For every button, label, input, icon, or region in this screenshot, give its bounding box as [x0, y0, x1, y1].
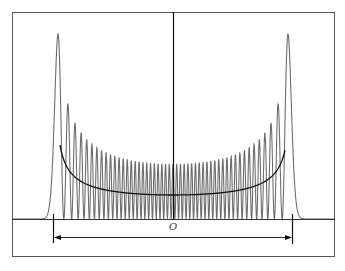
arrowhead-left [54, 235, 61, 240]
arrowhead-right [285, 235, 292, 240]
origin-label: O [169, 221, 177, 232]
